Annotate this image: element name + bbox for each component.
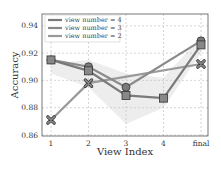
square-marker — [47, 56, 55, 64]
x-tick-label: final — [193, 139, 210, 148]
y-tick-label: 0.92 — [21, 49, 38, 58]
x-tick-label: 1 — [49, 139, 54, 148]
circle-marker — [122, 83, 130, 91]
y-tick-label: 0.94 — [21, 21, 38, 30]
square-marker — [197, 41, 205, 49]
y-tick-label: 0.88 — [21, 103, 38, 112]
y-axis-label: Accuracy — [9, 51, 20, 99]
legend-label: view number = 3 — [64, 24, 122, 32]
legend-label: view number = 4 — [64, 16, 122, 24]
y-tick-label: 0.86 — [21, 131, 38, 140]
square-marker — [160, 94, 168, 102]
line-chart: 0.860.880.900.920.94 1234final view numb… — [0, 0, 221, 169]
square-marker — [122, 91, 130, 99]
x-tick-label: 4 — [161, 139, 166, 148]
square-marker — [85, 67, 93, 75]
legend: view number = 4view number = 3view numbe… — [45, 15, 122, 42]
y-axis-ticks: 0.860.880.900.920.94 — [21, 21, 38, 139]
y-tick-label: 0.90 — [21, 76, 38, 85]
x-axis-label: View Index — [96, 146, 154, 157]
legend-label: view number = 2 — [64, 32, 122, 40]
x-tick-label: 2 — [86, 139, 91, 148]
